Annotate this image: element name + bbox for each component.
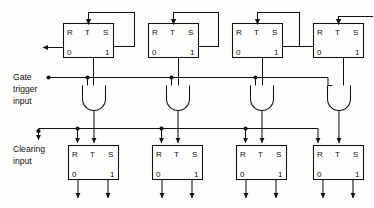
ff-top-2-one: 1: [190, 48, 195, 57]
ff-top-3-t: T: [254, 28, 259, 37]
ff-bot-2-zero: 0: [156, 170, 161, 179]
ff-top-1-s: S: [103, 28, 108, 37]
junction-dots: [36, 75, 257, 133]
ff-top-3-s: S: [272, 28, 277, 37]
ff-top-2-pins: R T S 0 1: [152, 28, 195, 57]
ff-top-2-s: S: [188, 28, 193, 37]
and-gate-2-body: [167, 86, 190, 111]
gate-trigger-source-dot: [46, 75, 50, 79]
gate-trigger-dot-1: [85, 75, 89, 79]
clearing-label-line1: Clearing: [13, 144, 45, 154]
ff-bot-3-zero: 0: [240, 170, 245, 179]
ff-bot-3-s: S: [276, 150, 281, 159]
ff-top-3-zero: 0: [236, 48, 241, 57]
ff-top-4-pins: R T S 0 1: [317, 28, 360, 57]
ff-bot-2-t: T: [174, 150, 179, 159]
ff-bot-4-s: S: [353, 150, 358, 159]
ff-top-2-zero: 0: [152, 48, 157, 57]
ff-bot-1-s: S: [108, 150, 113, 159]
ff-bot-4-t: T: [335, 150, 340, 159]
clearing-dot-3: [243, 126, 247, 130]
ff-bot-3-one: 1: [278, 170, 283, 179]
ff-top-1-r: R: [67, 28, 73, 37]
ff-top-4-one: 1: [355, 48, 360, 57]
gate-trigger-input-label: Gate trigger input: [13, 72, 37, 106]
ff-bot-1-t: T: [90, 150, 95, 159]
circuit-diagram: R T S 0 1 R T S 0 1 R T S 0 1 R T S 0 1 …: [0, 0, 374, 208]
ff-bot-4-r: R: [317, 150, 323, 159]
ff-bot-2-one: 1: [194, 170, 199, 179]
ff-bot-4-pins: R T S 0 1: [317, 150, 360, 179]
gate-trigger-label-line2: trigger: [13, 84, 37, 94]
ff-bot-1-zero: 0: [72, 170, 77, 179]
clearing-input-label: Clearing input: [13, 144, 45, 166]
diagram-canvas: R T S 0 1 R T S 0 1 R T S 0 1 R T S 0 1 …: [0, 0, 374, 208]
ff-top-1-one: 1: [105, 48, 110, 57]
ff-top-4-t: T: [335, 28, 340, 37]
ff-top-3-r: R: [236, 28, 242, 37]
and-gate-4-body: [328, 86, 351, 111]
ff-bot-4-one: 1: [355, 170, 360, 179]
gate-trigger-tap-4: [328, 78, 333, 86]
and-gate-1-body: [83, 86, 106, 111]
ff-top-3-one: 1: [274, 48, 279, 57]
feedback-wire-1: [89, 13, 135, 47]
ff-bot-3-pins: R T S 0 1: [240, 150, 283, 179]
ff-top-1-zero: 0: [67, 48, 72, 57]
ff-bot-4-zero: 0: [317, 170, 322, 179]
ff-top-2-t: T: [170, 28, 175, 37]
clearing-source-dot: [36, 129, 40, 133]
ff-bot-2-s: S: [192, 150, 197, 159]
ff-bot-1-r: R: [72, 150, 78, 159]
ff-bot-2-r: R: [156, 150, 162, 159]
clearing-dot-1: [75, 126, 79, 130]
gate-trigger-dot-2: [169, 75, 173, 79]
ff-bot-1-pins: R T S 0 1: [72, 150, 115, 179]
ff-bot-3-t: T: [258, 150, 263, 159]
and-gate-3-body: [251, 86, 274, 111]
ff-top-1-t: T: [85, 28, 90, 37]
ff-top-4-zero: 0: [317, 48, 322, 57]
ff-top-4-s: S: [353, 28, 358, 37]
clearing-label-line2: input: [13, 156, 32, 166]
feedback-wire-2: [174, 13, 219, 47]
gate-trigger-label-line1: Gate: [13, 72, 32, 82]
ff-top-2-r: R: [152, 28, 158, 37]
ff-top-3-pins: R T S 0 1: [236, 28, 279, 57]
ff-bot-3-r: R: [240, 150, 246, 159]
gate-trigger-dot-3: [253, 75, 257, 79]
ff-bot-1-one: 1: [110, 170, 115, 179]
feedback-wire-4: [339, 17, 374, 24]
ff-top-1-pins: R T S 0 1: [67, 28, 110, 57]
gate-trigger-label-line3: input: [13, 96, 32, 106]
feedback-wire-3: [258, 13, 300, 47]
clearing-dot-2: [159, 126, 163, 130]
ff-bot-2-pins: R T S 0 1: [156, 150, 199, 179]
ff-top-4-r: R: [317, 28, 323, 37]
